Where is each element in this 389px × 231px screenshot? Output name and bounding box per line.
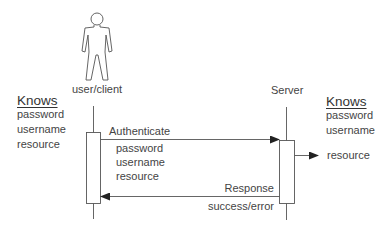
client-actor-label: user/client: [72, 83, 122, 96]
response-message-label: Response: [224, 182, 274, 195]
client-activation-box: [87, 133, 101, 204]
client-knows-block: Knows password username resource: [17, 93, 66, 151]
authenticate-param: resource: [116, 170, 165, 183]
authenticate-params: password username resource: [116, 142, 165, 183]
server-knows-title: Knows: [326, 94, 375, 109]
server-knows-block: Knows password username: [326, 94, 375, 137]
client-knows-item: resource: [17, 138, 66, 151]
authenticate-param: password: [116, 142, 165, 155]
authenticate-param: username: [116, 156, 165, 169]
client-knows-item: username: [17, 123, 66, 136]
server-actor-label: Server: [271, 84, 303, 97]
person-icon: [82, 13, 112, 80]
server-output-label: resource: [327, 149, 370, 162]
authenticate-message-label: Authenticate: [109, 125, 170, 138]
server-activation-box: [280, 141, 295, 204]
client-knows-item: password: [17, 108, 66, 121]
server-knows-item: username: [326, 124, 375, 137]
client-knows-title: Knows: [17, 93, 66, 108]
response-message-detail: success/error: [208, 200, 274, 213]
server-knows-item: password: [326, 109, 375, 122]
